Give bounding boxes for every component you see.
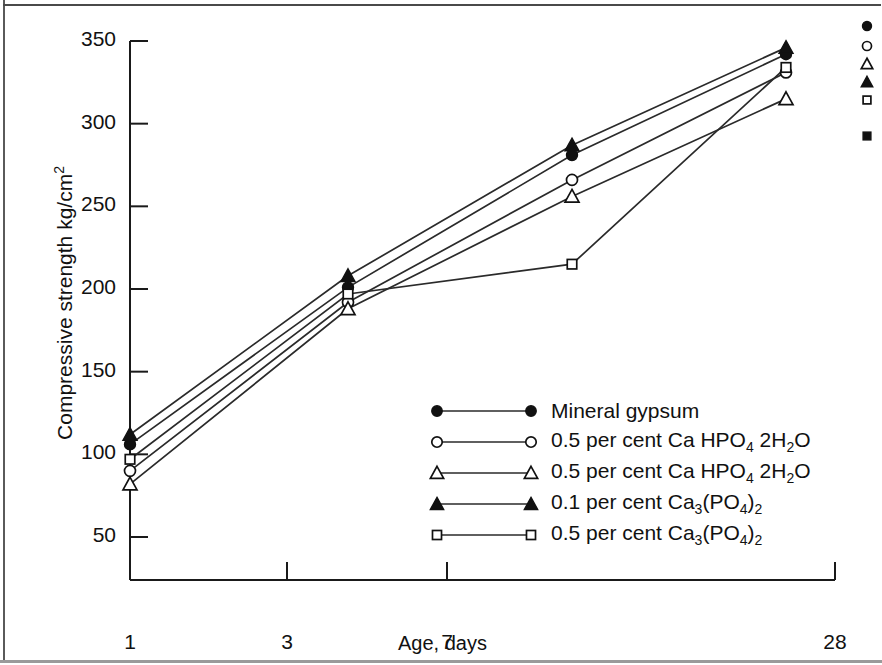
- legend-label-part: 0.1 per cent Ca: [551, 490, 695, 513]
- marker-open-circle: [862, 41, 871, 50]
- marker-open-square: [567, 259, 577, 269]
- legend-label-part: ): [748, 521, 755, 544]
- marker-open-square: [526, 530, 535, 539]
- x-axis-title: Age, days: [398, 632, 487, 655]
- legend-label-part: 0.5 per cent Ca HPO: [551, 459, 746, 482]
- legend-label-part: (PO: [702, 521, 739, 544]
- legend-item: 0.5 per cent Ca3(PO4)2: [425, 519, 811, 550]
- legend-marker-key: [425, 398, 543, 424]
- legend-label-part: 0.5 per cent Ca HPO: [551, 428, 746, 451]
- legend-item: 0.5 per cent Ca HPO4 2H2O: [425, 457, 811, 488]
- legend-label-part: 2H: [754, 428, 787, 451]
- legend-marker-key: [425, 429, 543, 455]
- marker-open-square: [343, 289, 353, 299]
- x-axis-tick-label: 28: [805, 630, 865, 654]
- legend-item: 0.1 per cent Ca3(PO4)2: [425, 488, 811, 519]
- orphan-marker-filled-square: [856, 126, 878, 146]
- legend-label-part: O: [794, 459, 810, 482]
- orphan-marker-filled-triangle: [856, 72, 878, 92]
- legend-label: 0.1 per cent Ca3(PO4)2: [551, 490, 762, 517]
- series-line-0: [130, 54, 786, 444]
- marker-open-triangle: [123, 477, 137, 490]
- chart-page: 50100150200250300350 13728 Age, days Com…: [0, 0, 882, 665]
- legend-label-part: 0.5 per cent Ca: [551, 521, 695, 544]
- marker-filled-square: [863, 132, 871, 140]
- legend-marker-key: [425, 522, 543, 548]
- y-axis-title-exponent: 2: [51, 166, 67, 174]
- legend-marker-key: [425, 460, 543, 486]
- marker-open-square: [125, 455, 135, 465]
- line-chart-plot: [0, 0, 882, 665]
- y-axis-title-base: Compressive strength kg/cm: [53, 174, 76, 440]
- legend-label: 0.5 per cent Ca HPO4 2H2O: [551, 459, 811, 486]
- y-axis-title: Compressive strength kg/cm2: [51, 153, 77, 453]
- y-axis-tick-label: 50: [58, 523, 116, 547]
- series-line-3: [130, 48, 786, 435]
- legend-marker-key: [425, 491, 543, 517]
- legend-label-part: 4: [740, 532, 748, 548]
- orphan-marker-open-triangle: [856, 54, 878, 74]
- legend-label-part: (PO: [702, 490, 739, 513]
- marker-open-square: [863, 96, 871, 104]
- legend-label: 0.5 per cent Ca3(PO4)2: [551, 521, 762, 548]
- legend-label-part: 4: [746, 439, 754, 455]
- legend-label: Mineral gypsum: [551, 399, 699, 423]
- marker-filled-triangle: [861, 76, 872, 86]
- chart-legend: Mineral gypsum0.5 per cent Ca HPO4 2H2O0…: [425, 395, 811, 550]
- legend-label-part: 4: [740, 501, 748, 517]
- marker-filled-triangle: [565, 138, 579, 151]
- legend-label-part: ): [748, 490, 755, 513]
- y-axis-tick-label: 300: [58, 110, 116, 134]
- marker-open-square: [432, 530, 441, 539]
- legend-label: 0.5 per cent Ca HPO4 2H2O: [551, 428, 811, 455]
- marker-open-circle: [526, 436, 536, 446]
- marker-open-square: [781, 63, 791, 73]
- x-axis-tick-label: 1: [100, 630, 160, 654]
- marker-filled-triangle: [779, 41, 793, 54]
- marker-open-triangle: [861, 58, 872, 68]
- marker-open-circle: [567, 174, 578, 185]
- marker-open-circle: [125, 465, 136, 476]
- marker-filled-triangle: [341, 269, 355, 282]
- legend-label-part: 4: [746, 470, 754, 486]
- orphan-marker-filled-circle: [856, 16, 878, 36]
- marker-filled-circle: [526, 405, 536, 415]
- legend-label-part: 2: [755, 501, 763, 517]
- orphan-marker-open-square: [856, 90, 878, 110]
- marker-open-triangle: [565, 189, 579, 202]
- orphan-marker-open-circle: [856, 36, 878, 56]
- marker-filled-circle: [432, 405, 442, 415]
- marker-open-circle: [432, 436, 442, 446]
- marker-filled-circle: [862, 21, 871, 30]
- x-axis-tick-label: 3: [257, 630, 317, 654]
- legend-item: Mineral gypsum: [425, 395, 811, 426]
- legend-label-part: 2H: [754, 459, 787, 482]
- y-axis-tick-label: 350: [58, 27, 116, 51]
- x-axis-ticks: [130, 562, 835, 580]
- legend-item: 0.5 per cent Ca HPO4 2H2O: [425, 426, 811, 457]
- marker-open-triangle: [779, 92, 793, 105]
- legend-label-part: O: [794, 428, 810, 451]
- legend-label-part: 2: [755, 532, 763, 548]
- marker-filled-triangle: [123, 427, 137, 440]
